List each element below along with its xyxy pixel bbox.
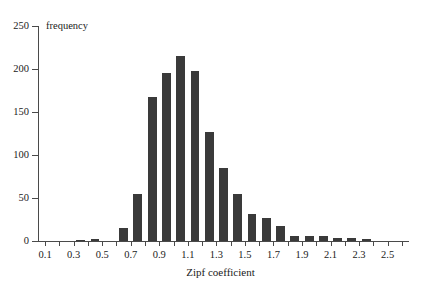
- x-axis-tick: [331, 242, 332, 246]
- x-axis-tick-label: 1.9: [295, 248, 308, 261]
- histogram-bar: [233, 194, 242, 241]
- x-axis-tick: [359, 242, 360, 246]
- x-axis-tick: [188, 242, 189, 246]
- histogram-bar: [248, 214, 257, 241]
- histogram-bar: [319, 236, 328, 241]
- x-axis-tick: [202, 242, 203, 246]
- histogram-bar: [305, 236, 314, 241]
- bars-layer: [38, 26, 409, 241]
- histogram-bar: [333, 238, 342, 241]
- y-axis-tick-label: 150: [13, 105, 29, 118]
- histogram-bar: [76, 240, 85, 241]
- x-axis-tick: [231, 242, 232, 246]
- x-axis-tick: [131, 242, 132, 246]
- x-axis-line: [38, 241, 409, 242]
- x-axis-tick: [216, 242, 217, 246]
- y-axis-tick: 0: [32, 241, 38, 242]
- x-axis-tick-label: 1.1: [181, 248, 194, 261]
- x-axis-tick-label: 2.1: [324, 248, 337, 261]
- x-axis-tick-label: 0.5: [96, 248, 109, 261]
- x-axis-tick: [288, 242, 289, 246]
- y-axis-tick-label: 100: [13, 148, 29, 161]
- x-axis-tick-label: 2.5: [381, 248, 394, 261]
- histogram-chart: frequency 050100150200250 Zipf coefficie…: [0, 0, 441, 286]
- x-axis-tick-label: 1.3: [210, 248, 223, 261]
- x-axis-tick-label: 1.7: [267, 248, 280, 261]
- x-axis-tick: [316, 242, 317, 246]
- histogram-bar: [219, 168, 228, 241]
- x-axis-title: Zipf coefficient: [0, 266, 441, 279]
- y-axis-tick-label: 50: [19, 191, 30, 204]
- x-axis-tick-label: 0.3: [67, 248, 80, 261]
- x-axis-tick: [302, 242, 303, 246]
- x-axis-tick: [116, 242, 117, 246]
- histogram-bar: [362, 239, 371, 241]
- x-axis-tick: [102, 242, 103, 246]
- histogram-bar: [162, 73, 171, 241]
- x-axis-tick: [88, 242, 89, 246]
- histogram-bar: [205, 132, 214, 241]
- histogram-bar: [276, 226, 285, 241]
- x-axis-tick-label: 0.9: [153, 248, 166, 261]
- histogram-bar: [191, 71, 200, 241]
- x-axis-tick: [45, 242, 46, 246]
- y-axis-tick-label: 250: [13, 19, 29, 32]
- x-axis-tick: [59, 242, 60, 246]
- histogram-bar: [290, 236, 299, 241]
- x-axis-tick: [145, 242, 146, 246]
- x-axis-tick: [273, 242, 274, 246]
- x-axis-tick: [245, 242, 246, 246]
- histogram-bar: [119, 228, 128, 241]
- histogram-bar: [347, 238, 356, 241]
- y-axis-tick-label: 200: [13, 62, 29, 75]
- x-axis-tick: [174, 242, 175, 246]
- histogram-bar: [176, 56, 185, 241]
- histogram-bar: [91, 239, 100, 241]
- x-axis-tick: [159, 242, 160, 246]
- histogram-bar: [262, 218, 271, 241]
- x-axis-tick: [74, 242, 75, 246]
- x-axis-tick: [402, 242, 403, 246]
- x-axis-tick: [373, 242, 374, 246]
- x-axis-tick: [345, 242, 346, 246]
- y-axis-tick-label: 0: [24, 234, 29, 247]
- x-axis-tick: [388, 242, 389, 246]
- x-axis-tick-label: 1.5: [238, 248, 251, 261]
- x-axis-tick-label: 0.7: [124, 248, 137, 261]
- x-axis-tick-label: 2.3: [352, 248, 365, 261]
- x-axis-tick-label: 0.1: [39, 248, 52, 261]
- x-axis-tick: [259, 242, 260, 246]
- histogram-bar: [133, 194, 142, 241]
- histogram-bar: [148, 97, 157, 241]
